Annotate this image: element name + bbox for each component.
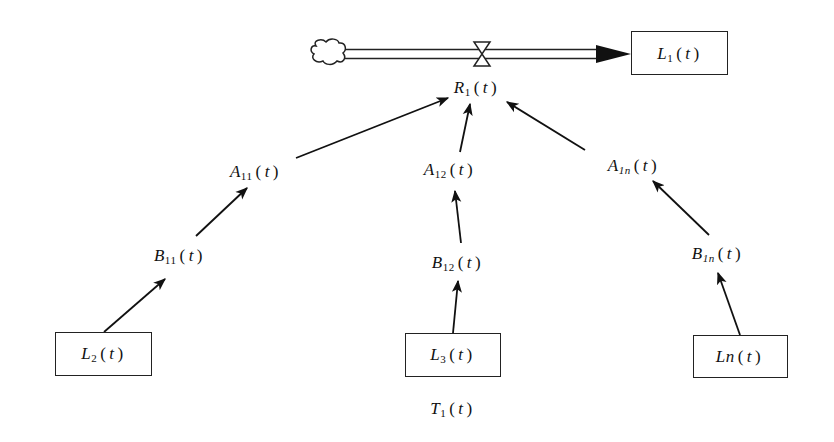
link-ln-b1n <box>718 273 740 335</box>
link-l3-b12 <box>453 281 458 333</box>
link-b11-a11 <box>196 188 247 236</box>
flow-arrowhead-icon <box>596 45 631 63</box>
label-r1: R1(t) <box>454 78 500 98</box>
label-a12: A12(t) <box>424 160 476 180</box>
label-b11: B11(t) <box>154 246 206 266</box>
label-l3: L3(t) <box>430 345 476 365</box>
rate-valve-icon <box>474 42 490 66</box>
link-a1n-r1 <box>507 102 585 150</box>
label-l1: L1(t) <box>657 44 703 64</box>
label-ln: Ln(t) <box>716 347 765 367</box>
link-l2-b11 <box>104 279 165 332</box>
label-l2: L2(t) <box>81 344 127 364</box>
link-b12-a12 <box>455 191 461 243</box>
label-b12: B12(t) <box>432 253 484 273</box>
label-a1n: A1n(t) <box>608 156 660 176</box>
link-a11-r1 <box>296 98 448 158</box>
link-a12-r1 <box>460 104 470 152</box>
link-b1n-a1n <box>653 181 709 235</box>
label-b1n: B1n(t) <box>692 244 744 264</box>
causal-links <box>104 98 740 335</box>
label-a11: A11(t) <box>230 162 282 182</box>
flow-pipe <box>345 45 631 63</box>
caption-t1: T1(t) <box>430 399 476 419</box>
source-cloud-icon <box>311 39 345 64</box>
